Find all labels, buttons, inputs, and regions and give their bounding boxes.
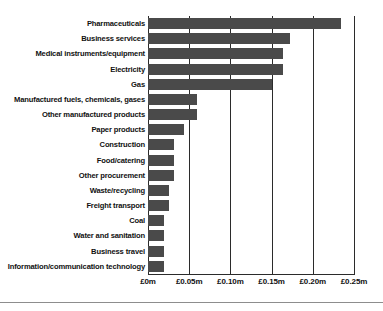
bar — [148, 215, 164, 226]
bar — [148, 261, 164, 272]
bar-row — [148, 213, 354, 228]
bar-row — [148, 153, 354, 168]
x-tick-label: £0.05m — [176, 277, 203, 286]
bar — [148, 109, 197, 120]
bar-row — [148, 168, 354, 183]
x-tick-label: £0.25m — [341, 277, 368, 286]
gridline-5 — [354, 16, 355, 274]
bar — [148, 124, 184, 135]
bar-chart: PharmaceuticalsBusiness servicesMedical … — [0, 0, 383, 311]
bar — [148, 18, 341, 29]
category-label: Other manufactured products — [0, 107, 145, 122]
bar — [148, 64, 283, 75]
category-label: Coal — [0, 213, 145, 228]
bar — [148, 155, 174, 166]
category-label: Paper products — [0, 122, 145, 137]
x-tick-label: £0.20m — [300, 277, 327, 286]
bar-row — [148, 62, 354, 77]
bar — [148, 79, 272, 90]
x-tick-label: £0.15m — [258, 277, 285, 286]
bar-row — [148, 92, 354, 107]
category-label: Information/communication technology — [0, 259, 145, 274]
bar-row — [148, 228, 354, 243]
category-label: Business services — [0, 31, 145, 46]
category-label: Waste/recycling — [0, 183, 145, 198]
bar — [148, 94, 197, 105]
bar-row — [148, 198, 354, 213]
bar-row — [148, 122, 354, 137]
bar-row — [148, 244, 354, 259]
category-label: Electricity — [0, 62, 145, 77]
category-label: Gas — [0, 77, 145, 92]
category-label: Pharmaceuticals — [0, 16, 145, 31]
category-label: Manufactured fuels, chemicals, gases — [0, 92, 145, 107]
bar-row — [148, 259, 354, 274]
bar-row — [148, 16, 354, 31]
category-label: Water and sanitation — [0, 228, 145, 243]
category-label: Medical instruments/equipment — [0, 46, 145, 61]
bar-row — [148, 183, 354, 198]
x-axis-tick-labels: £0m£0.05m£0.10m£0.15m£0.20m£0.25m — [148, 277, 354, 291]
bar — [148, 48, 283, 59]
bar — [148, 200, 169, 211]
category-label: Other procurement — [0, 168, 145, 183]
footer-divider — [0, 302, 383, 303]
bar — [148, 170, 174, 181]
category-labels: PharmaceuticalsBusiness servicesMedical … — [0, 16, 145, 274]
bar-row — [148, 107, 354, 122]
bar-row — [148, 77, 354, 92]
bar-row — [148, 46, 354, 61]
category-label: Business travel — [0, 244, 145, 259]
bar-row — [148, 31, 354, 46]
bars-layer — [148, 16, 354, 274]
x-tick-label: £0.10m — [217, 277, 244, 286]
bar — [148, 33, 290, 44]
bar — [148, 246, 164, 257]
bar-row — [148, 137, 354, 152]
category-label: Freight transport — [0, 198, 145, 213]
bar — [148, 139, 174, 150]
category-label: Food/catering — [0, 153, 145, 168]
x-axis-baseline — [148, 274, 355, 275]
x-tick-label: £0m — [140, 277, 156, 286]
bar — [148, 230, 164, 241]
category-label: Construction — [0, 137, 145, 152]
bar — [148, 185, 169, 196]
